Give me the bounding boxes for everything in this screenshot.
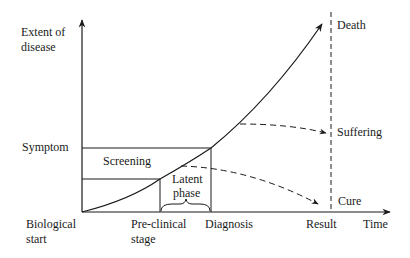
dashed-path-to-suffering [240,124,326,133]
diagnosis-label: Diagnosis [205,218,253,231]
y-axis-label-line2: disease [21,41,56,54]
y-axis-label-line1: Extent of [21,26,65,39]
biological-start-label-line1: Biological [26,218,76,231]
symptom-label: Symptom [22,141,69,154]
preclinical-label-line2: stage [131,233,156,246]
suffering-label: Suffering [337,126,382,139]
latent-label-line1: Latent [172,173,203,186]
latent-phase-brace [161,199,210,211]
preclinical-label-line1: Pre-clinical [131,218,186,231]
result-label: Result [306,218,337,231]
cure-label: Cure [338,195,361,208]
biological-start-label-line2: start [26,233,47,246]
latent-label-line2: phase [173,187,200,200]
screening-label: Screening [103,155,151,168]
death-label: Death [337,19,366,32]
time-axis-label: Time [363,218,388,231]
